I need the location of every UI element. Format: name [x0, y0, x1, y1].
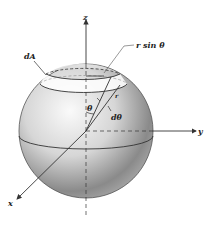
sphere-diagram: z y x dA r sin θ θ dθ r — [0, 0, 213, 226]
z-axis-label: z — [82, 12, 88, 22]
theta-label: θ — [87, 103, 93, 113]
x-axis-label: x — [7, 198, 13, 208]
dtheta-label: dθ — [111, 112, 123, 122]
dA-label: dA — [24, 51, 36, 61]
ring-radius-label: r sin θ — [136, 40, 165, 50]
y-axis-label: y — [197, 126, 204, 136]
dA-leader — [34, 61, 46, 75]
